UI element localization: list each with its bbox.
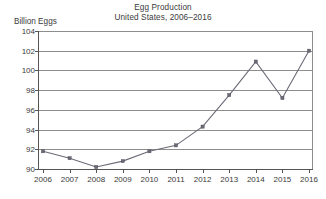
y-tick-label-90: 90 xyxy=(26,165,35,174)
x-tick-label-2012: 2012 xyxy=(194,175,212,184)
data-point-2016 xyxy=(307,49,310,52)
x-tick-mark-2011 xyxy=(176,169,177,173)
x-tick-label-2013: 2013 xyxy=(220,175,238,184)
x-tick-mark-2016 xyxy=(309,169,310,173)
data-point-2006 xyxy=(41,150,44,153)
egg-production-line-chart: Egg Production United States, 2006–2016 … xyxy=(0,0,326,199)
series-markers-group xyxy=(41,49,310,169)
y-axis-title: Billion Eggs xyxy=(14,17,57,26)
y-tick-label-98: 98 xyxy=(26,86,35,95)
x-tick-mark-2007 xyxy=(70,169,71,173)
x-tick-mark-2010 xyxy=(149,169,150,173)
y-tick-label-104: 104 xyxy=(22,27,35,36)
x-tick-label-2010: 2010 xyxy=(140,175,158,184)
data-series-svg xyxy=(39,31,313,169)
x-tick-label-2009: 2009 xyxy=(114,175,132,184)
x-tick-mark-2013 xyxy=(229,169,230,173)
data-point-2008 xyxy=(95,165,98,168)
plot-area: 9092949698100102104 20062007200820092010… xyxy=(38,31,313,170)
x-tick-mark-2009 xyxy=(123,169,124,173)
data-point-2009 xyxy=(121,160,124,163)
x-tick-mark-2012 xyxy=(203,169,204,173)
data-point-2014 xyxy=(254,60,257,63)
data-point-2007 xyxy=(68,157,71,160)
y-tick-label-92: 92 xyxy=(26,145,35,154)
data-point-2015 xyxy=(281,96,284,99)
data-point-2010 xyxy=(148,150,151,153)
x-tick-mark-2014 xyxy=(256,169,257,173)
data-point-2012 xyxy=(201,125,204,128)
x-tick-label-2008: 2008 xyxy=(87,175,105,184)
x-tick-label-2014: 2014 xyxy=(247,175,265,184)
y-tick-mark-90 xyxy=(35,169,39,170)
x-tick-label-2007: 2007 xyxy=(61,175,79,184)
data-point-2013 xyxy=(228,93,231,96)
y-tick-label-94: 94 xyxy=(26,125,35,134)
x-tick-mark-2006 xyxy=(43,169,44,173)
x-tick-label-2006: 2006 xyxy=(34,175,52,184)
x-tick-label-2016: 2016 xyxy=(300,175,318,184)
y-tick-label-100: 100 xyxy=(22,66,35,75)
x-tick-mark-2015 xyxy=(282,169,283,173)
x-tick-label-2011: 2011 xyxy=(167,175,184,184)
chart-title: Egg Production xyxy=(0,3,326,13)
data-point-2011 xyxy=(174,144,177,147)
y-tick-label-102: 102 xyxy=(22,46,35,55)
x-tick-mark-2008 xyxy=(96,169,97,173)
y-tick-label-96: 96 xyxy=(26,105,35,114)
x-tick-label-2015: 2015 xyxy=(273,175,291,184)
series-line-egg-production xyxy=(43,51,309,167)
